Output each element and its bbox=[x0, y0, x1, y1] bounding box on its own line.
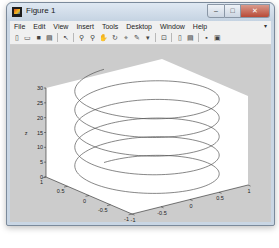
window-controls: – □ ✕ bbox=[207, 4, 270, 16]
menu-overflow-arrow-icon[interactable]: ▾ bbox=[264, 22, 267, 29]
menu-edit[interactable]: Edit bbox=[29, 23, 49, 30]
svg-text:30: 30 bbox=[37, 85, 43, 91]
figure-client-area: File Edit View Insert Tools Desktop Wind… bbox=[10, 21, 271, 222]
menu-tools[interactable]: Tools bbox=[98, 23, 122, 30]
rotate-3d-button[interactable]: ↻ bbox=[110, 33, 119, 42]
zoom-out-button[interactable]: ⚲ bbox=[88, 33, 97, 42]
brush-button[interactable]: ✎ bbox=[132, 33, 141, 42]
show-plot-tools-button[interactable]: ▣ bbox=[213, 33, 222, 42]
svg-text:0.5: 0.5 bbox=[57, 188, 65, 194]
svg-text:0: 0 bbox=[189, 203, 192, 209]
svg-text:y: y bbox=[85, 221, 88, 222]
svg-text:20: 20 bbox=[37, 115, 43, 121]
toolbar-separator bbox=[155, 33, 156, 42]
print-figure-button[interactable]: ▤ bbox=[45, 33, 54, 42]
insert-legend-button[interactable]: ▤ bbox=[186, 33, 195, 42]
close-button[interactable]: ✕ bbox=[241, 4, 270, 18]
edit-plot-button[interactable]: ↖ bbox=[61, 33, 70, 42]
data-cursor-button[interactable]: ⌖ bbox=[121, 33, 130, 42]
svg-text:0: 0 bbox=[40, 174, 43, 180]
svg-text:5: 5 bbox=[40, 159, 43, 165]
matlab-figure-icon bbox=[12, 7, 22, 17]
menu-help[interactable]: Help bbox=[189, 23, 211, 30]
toolbar-separator bbox=[198, 33, 199, 42]
hide-plot-tools-button[interactable]: ▪ bbox=[202, 33, 211, 42]
menu-insert[interactable]: Insert bbox=[72, 23, 98, 30]
insert-colorbar-button[interactable]: ▯ bbox=[175, 33, 184, 42]
toolbar-separator bbox=[73, 33, 74, 42]
maximize-button[interactable]: □ bbox=[225, 4, 241, 18]
svg-text:0.5: 0.5 bbox=[216, 195, 224, 201]
svg-text:-1: -1 bbox=[124, 216, 129, 222]
window-title: Figure 1 bbox=[26, 6, 55, 15]
svg-text:10: 10 bbox=[37, 144, 43, 150]
figure-toolbar: ▯ ▭ ■ ▤ ↖ ⚲ ⚲ ✋ ↻ ⌖ ✎ ▾ ⊡ ▯ ▤ ▪ ▣ bbox=[10, 31, 271, 45]
title-bar[interactable]: Figure 1 – □ ✕ bbox=[7, 3, 274, 21]
save-figure-button[interactable]: ■ bbox=[34, 33, 43, 42]
open-file-button[interactable]: ▭ bbox=[23, 33, 32, 42]
menu-file[interactable]: File bbox=[10, 23, 29, 30]
svg-text:-1: -1 bbox=[131, 217, 136, 222]
svg-text:1: 1 bbox=[247, 188, 250, 194]
pan-button[interactable]: ✋ bbox=[99, 33, 108, 42]
figure-canvas: -1-0.500.51-1-0.500.51051015202530 xyz bbox=[10, 45, 271, 222]
menu-window[interactable]: Window bbox=[156, 23, 189, 30]
svg-text:z: z bbox=[25, 130, 28, 136]
new-figure-button[interactable]: ▯ bbox=[12, 33, 21, 42]
figure-window: Figure 1 – □ ✕ File Edit View Insert Too… bbox=[6, 2, 275, 226]
menu-desktop[interactable]: Desktop bbox=[122, 23, 156, 30]
svg-text:25: 25 bbox=[37, 100, 43, 106]
zoom-in-button[interactable]: ⚲ bbox=[77, 33, 86, 42]
minimize-button[interactable]: – bbox=[207, 4, 225, 18]
svg-text:-0.5: -0.5 bbox=[98, 207, 107, 213]
axes-3d[interactable]: -1-0.500.51-1-0.500.51051015202530 xyz bbox=[10, 45, 271, 222]
brush-dropdown-button[interactable]: ▾ bbox=[143, 33, 152, 42]
menu-bar: File Edit View Insert Tools Desktop Wind… bbox=[10, 21, 271, 31]
toolbar-separator bbox=[171, 33, 172, 42]
toolbar-separator bbox=[57, 33, 58, 42]
svg-text:-0.5: -0.5 bbox=[157, 210, 166, 216]
svg-text:0: 0 bbox=[83, 198, 86, 204]
menu-view[interactable]: View bbox=[49, 23, 72, 30]
axes-background bbox=[46, 59, 248, 214]
svg-text:15: 15 bbox=[37, 130, 43, 136]
link-plot-button[interactable]: ⊡ bbox=[159, 33, 168, 42]
